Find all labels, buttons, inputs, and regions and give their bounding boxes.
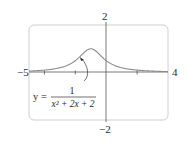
y-min-label: −2 [99, 123, 111, 135]
formula-numerator: 1 [70, 85, 75, 96]
x-min-label: −5 [17, 66, 29, 78]
y-max-label: 2 [102, 10, 108, 22]
formula-denominator: x² + 2x + 2 [50, 99, 94, 109]
x-tick-marks [44, 71, 137, 75]
annotation-arrow [82, 59, 88, 81]
curve-1-over-x2-plus-2x-plus-2 [29, 49, 168, 72]
viewing-window-frame [29, 25, 168, 120]
function-graph: −5 4 2 −2 y = 1 x² + 2x + 2 [0, 0, 188, 144]
formula-lhs: y = [33, 91, 47, 102]
x-max-label: 4 [172, 66, 178, 78]
